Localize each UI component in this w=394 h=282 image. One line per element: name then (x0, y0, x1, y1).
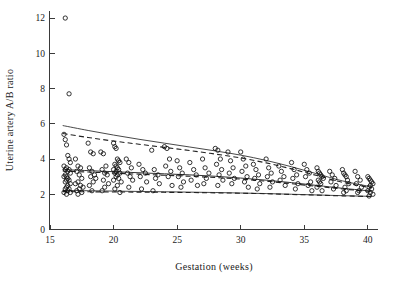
data-point (239, 150, 243, 154)
x-tick-label: 25 (172, 235, 182, 245)
data-point (119, 180, 123, 184)
data-point (91, 180, 95, 184)
data-point (277, 164, 281, 168)
scatter-points-group (62, 16, 375, 198)
data-point (188, 160, 192, 164)
data-point (64, 143, 68, 147)
data-point (189, 178, 193, 182)
x-tick-label: 30 (236, 235, 246, 245)
data-point (251, 162, 255, 166)
data-point (329, 180, 333, 184)
data-point (89, 175, 93, 179)
data-point (80, 176, 84, 180)
data-point (216, 183, 220, 187)
data-point (127, 160, 131, 164)
data-point (240, 169, 244, 173)
data-point (310, 189, 314, 193)
data-point (279, 169, 283, 173)
data-point (246, 185, 250, 189)
data-point (86, 141, 90, 145)
data-point (283, 183, 287, 187)
data-point (254, 167, 258, 171)
data-point (129, 166, 133, 170)
x-tick-label: 20 (109, 235, 119, 245)
data-point (153, 176, 157, 180)
data-point (101, 178, 105, 182)
data-point (295, 173, 299, 177)
data-point (358, 178, 362, 182)
data-point (289, 160, 293, 164)
data-point (303, 175, 307, 179)
y-tick-label: 0 (40, 225, 45, 235)
data-point (167, 157, 171, 161)
data-point (104, 164, 108, 168)
data-point (127, 185, 131, 189)
y-tick-label: 6 (40, 119, 45, 129)
data-point (152, 167, 156, 171)
data-point (228, 159, 232, 163)
data-point (267, 166, 271, 170)
data-point (138, 175, 142, 179)
y-tick-label: 4 (40, 154, 45, 164)
data-point (203, 166, 207, 170)
data-point (113, 187, 117, 191)
data-point (202, 182, 206, 186)
data-point (67, 92, 71, 96)
data-point (175, 159, 179, 163)
scatter-plot-figure: 152025303540024681012 Gestation (weeks) … (0, 0, 394, 282)
data-point (320, 189, 324, 193)
y-tick-label: 10 (36, 49, 46, 59)
y-tick-label: 12 (36, 13, 46, 23)
data-point (137, 162, 141, 166)
data-point (200, 157, 204, 161)
data-point (207, 171, 211, 175)
data-point (218, 157, 222, 161)
data-point (170, 183, 174, 187)
data-point (63, 16, 67, 20)
data-point (302, 162, 306, 166)
data-point (227, 171, 231, 175)
x-tick-label: 15 (45, 235, 55, 245)
data-point (244, 164, 248, 168)
axes-group (50, 11, 379, 230)
data-point (73, 157, 77, 161)
data-point (353, 169, 357, 173)
data-point (268, 185, 272, 189)
data-point (195, 183, 199, 187)
data-point (181, 180, 185, 184)
data-point (176, 175, 180, 179)
data-point (63, 137, 67, 141)
data-point (231, 166, 235, 170)
data-point (214, 162, 218, 166)
data-point (111, 178, 115, 182)
data-point (144, 180, 148, 184)
data-point (87, 183, 91, 187)
y-tick-label: 2 (40, 190, 45, 200)
data-point (219, 167, 223, 171)
data-point (150, 148, 154, 152)
data-point (265, 175, 269, 179)
data-point (178, 166, 182, 170)
data-point (269, 171, 273, 175)
plot-canvas: 152025303540024681012 Gestation (weeks) … (0, 0, 394, 282)
data-point (139, 187, 143, 191)
data-point (169, 169, 173, 173)
y-tick-label: 8 (40, 84, 45, 94)
data-point (256, 173, 260, 177)
y-axis-title: Uterine artery A/B ratio (4, 69, 15, 171)
data-point (157, 182, 161, 186)
data-point (179, 185, 183, 189)
data-point (221, 178, 225, 182)
data-point (230, 182, 234, 186)
data-point (226, 150, 230, 154)
data-point (282, 175, 286, 179)
data-point (166, 175, 170, 179)
data-point (242, 180, 246, 184)
data-point (293, 187, 297, 191)
x-tick-label: 35 (300, 235, 310, 245)
data-point (291, 176, 295, 180)
data-point (131, 178, 135, 182)
x-axis-title: Gestation (weeks) (175, 261, 253, 273)
x-tick-label: 40 (363, 235, 373, 245)
data-point (106, 182, 110, 186)
